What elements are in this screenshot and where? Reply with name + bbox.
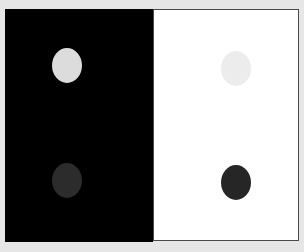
disc-bottom-right xyxy=(221,165,251,200)
contrast-illusion-figure xyxy=(5,9,299,242)
white-bottom-cell xyxy=(153,125,299,241)
disc-top-left xyxy=(52,48,82,83)
black-background-panel xyxy=(5,9,153,242)
disc-bottom-left xyxy=(52,163,82,198)
disc-top-right xyxy=(221,51,251,86)
white-top-cell xyxy=(153,9,299,126)
